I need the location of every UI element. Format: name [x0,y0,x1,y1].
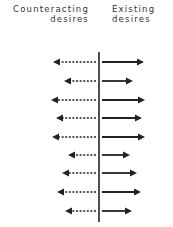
right-arrowhead-icon [123,152,130,159]
right-arrowhead-icon [130,170,137,177]
right-arrowhead-icon [135,115,142,122]
left-arrowhead-icon [56,115,63,122]
left-arrowhead-icon [57,189,64,196]
right-arrowhead-icon [138,134,145,141]
left-arrowhead-icon [52,134,59,141]
right-arrowhead-icon [126,78,133,85]
desire-arrows-diagram [0,0,173,227]
right-arrowhead-icon [137,59,144,66]
left-arrowhead-icon [53,59,60,66]
left-arrowhead-icon [68,152,75,159]
arrow-rows [51,59,145,215]
right-arrowhead-icon [138,97,145,104]
right-arrowhead-icon [125,208,132,215]
left-arrowhead-icon [51,97,58,104]
left-arrowhead-icon [62,170,69,177]
right-arrowhead-icon [134,189,141,196]
left-arrowhead-icon [64,78,71,85]
left-arrowhead-icon [65,208,72,215]
arrow-row [51,97,145,104]
